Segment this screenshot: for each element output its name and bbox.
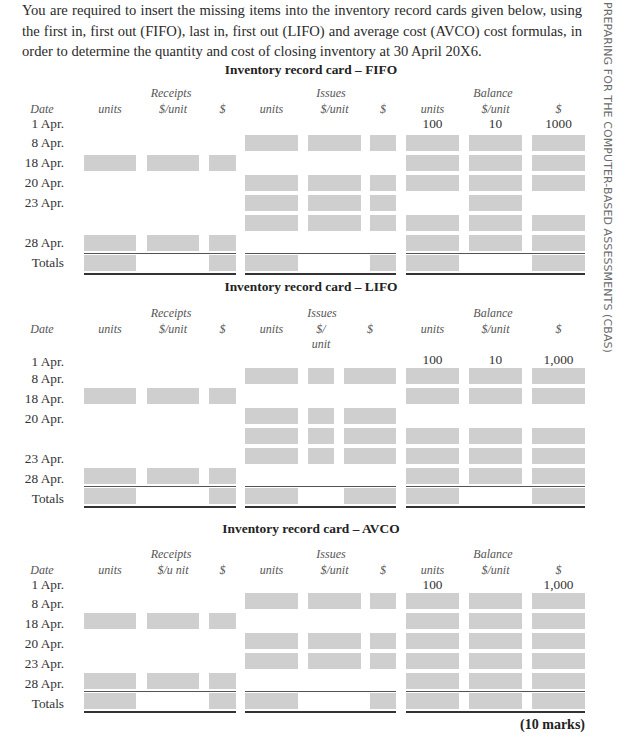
input-cell[interactable] <box>469 448 522 464</box>
total-cell[interactable] <box>84 693 136 709</box>
input-cell[interactable] <box>406 673 459 689</box>
input-cell[interactable] <box>84 155 136 171</box>
input-cell[interactable] <box>245 135 298 151</box>
input-cell[interactable] <box>370 175 396 191</box>
input-cell[interactable] <box>344 408 396 424</box>
input-cell[interactable] <box>406 448 459 464</box>
input-cell[interactable] <box>147 235 199 251</box>
input-cell[interactable] <box>245 653 298 669</box>
input-cell[interactable] <box>308 408 334 424</box>
input-cell[interactable] <box>532 135 585 151</box>
input-cell[interactable] <box>406 135 459 151</box>
input-cell[interactable] <box>532 633 585 649</box>
input-cell[interactable] <box>308 593 361 609</box>
total-cell[interactable] <box>209 488 236 504</box>
input-cell[interactable] <box>308 653 361 669</box>
input-cell[interactable] <box>469 468 522 484</box>
input-cell[interactable] <box>406 633 459 649</box>
input-cell[interactable] <box>532 448 585 464</box>
input-cell[interactable] <box>245 428 298 444</box>
input-cell[interactable] <box>406 653 459 669</box>
total-cell[interactable] <box>209 255 236 271</box>
total-cell[interactable] <box>532 255 585 271</box>
input-cell[interactable] <box>406 215 459 231</box>
input-cell[interactable] <box>209 388 236 404</box>
input-cell[interactable] <box>469 195 522 211</box>
total-cell[interactable] <box>245 255 298 271</box>
input-cell[interactable] <box>532 388 585 404</box>
input-cell[interactable] <box>469 613 522 629</box>
input-cell[interactable] <box>532 613 585 629</box>
input-cell[interactable] <box>84 613 136 629</box>
input-cell[interactable] <box>84 468 136 484</box>
input-cell[interactable] <box>370 215 396 231</box>
total-cell[interactable] <box>406 693 459 709</box>
input-cell[interactable] <box>469 673 522 689</box>
input-cell[interactable] <box>308 215 361 231</box>
input-cell[interactable] <box>344 428 396 444</box>
input-cell[interactable] <box>370 135 396 151</box>
input-cell[interactable] <box>344 448 396 464</box>
input-cell[interactable] <box>308 448 334 464</box>
total-cell[interactable] <box>84 255 136 271</box>
input-cell[interactable] <box>406 593 459 609</box>
input-cell[interactable] <box>147 155 199 171</box>
input-cell[interactable] <box>147 673 199 689</box>
input-cell[interactable] <box>370 653 396 669</box>
input-cell[interactable] <box>469 633 522 649</box>
input-cell[interactable] <box>406 613 459 629</box>
input-cell[interactable] <box>370 195 396 211</box>
input-cell[interactable] <box>532 653 585 669</box>
input-cell[interactable] <box>245 215 298 231</box>
input-cell[interactable] <box>308 633 361 649</box>
input-cell[interactable] <box>245 448 298 464</box>
input-cell[interactable] <box>84 673 136 689</box>
input-cell[interactable] <box>469 135 522 151</box>
input-cell[interactable] <box>532 368 585 384</box>
input-cell[interactable] <box>370 633 396 649</box>
input-cell[interactable] <box>209 613 236 629</box>
input-cell[interactable] <box>406 155 459 171</box>
input-cell[interactable] <box>209 673 236 689</box>
input-cell[interactable] <box>147 613 199 629</box>
input-cell[interactable] <box>469 428 522 444</box>
input-cell[interactable] <box>469 175 522 191</box>
total-cell[interactable] <box>344 488 396 504</box>
total-cell[interactable] <box>209 693 236 709</box>
input-cell[interactable] <box>147 468 199 484</box>
input-cell[interactable] <box>370 593 396 609</box>
input-cell[interactable] <box>84 388 136 404</box>
input-cell[interactable] <box>406 428 459 444</box>
input-cell[interactable] <box>406 468 459 484</box>
input-cell[interactable] <box>532 175 585 191</box>
input-cell[interactable] <box>245 175 298 191</box>
total-cell[interactable] <box>370 693 396 709</box>
total-cell[interactable] <box>370 255 396 271</box>
input-cell[interactable] <box>344 368 396 384</box>
input-cell[interactable] <box>209 235 236 251</box>
input-cell[interactable] <box>469 368 522 384</box>
input-cell[interactable] <box>469 235 522 251</box>
input-cell[interactable] <box>532 235 585 251</box>
total-cell[interactable] <box>245 693 298 709</box>
input-cell[interactable] <box>469 215 522 231</box>
input-cell[interactable] <box>308 175 361 191</box>
input-cell[interactable] <box>209 468 236 484</box>
input-cell[interactable] <box>245 368 298 384</box>
input-cell[interactable] <box>245 195 298 211</box>
input-cell[interactable] <box>406 235 459 251</box>
input-cell[interactable] <box>84 235 136 251</box>
input-cell[interactable] <box>469 653 522 669</box>
input-cell[interactable] <box>532 593 585 609</box>
total-cell[interactable] <box>84 488 136 504</box>
total-cell[interactable] <box>532 693 585 709</box>
input-cell[interactable] <box>469 388 522 404</box>
input-cell[interactable] <box>308 135 361 151</box>
input-cell[interactable] <box>532 428 585 444</box>
input-cell[interactable] <box>245 593 298 609</box>
input-cell[interactable] <box>406 388 459 404</box>
total-cell[interactable] <box>245 488 298 504</box>
input-cell[interactable] <box>532 673 585 689</box>
input-cell[interactable] <box>209 155 236 171</box>
input-cell[interactable] <box>406 175 459 191</box>
